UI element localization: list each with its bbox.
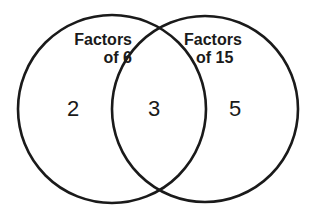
set-label-factors-of-15: Factors of 15 bbox=[176, 31, 248, 67]
venn-diagram: Factors of 6 Factors of 15 2 3 5 bbox=[0, 0, 313, 216]
value-intersection: 3 bbox=[148, 97, 160, 121]
set-label-line2: of 15 bbox=[176, 49, 248, 67]
set-label-line1: Factors bbox=[176, 31, 248, 49]
set-label-line1: Factors bbox=[62, 31, 132, 49]
set-label-line2: of 6 bbox=[62, 49, 132, 67]
set-label-factors-of-6: Factors of 6 bbox=[62, 31, 132, 67]
value-only-15: 5 bbox=[229, 97, 241, 121]
value-only-6: 2 bbox=[67, 97, 79, 121]
